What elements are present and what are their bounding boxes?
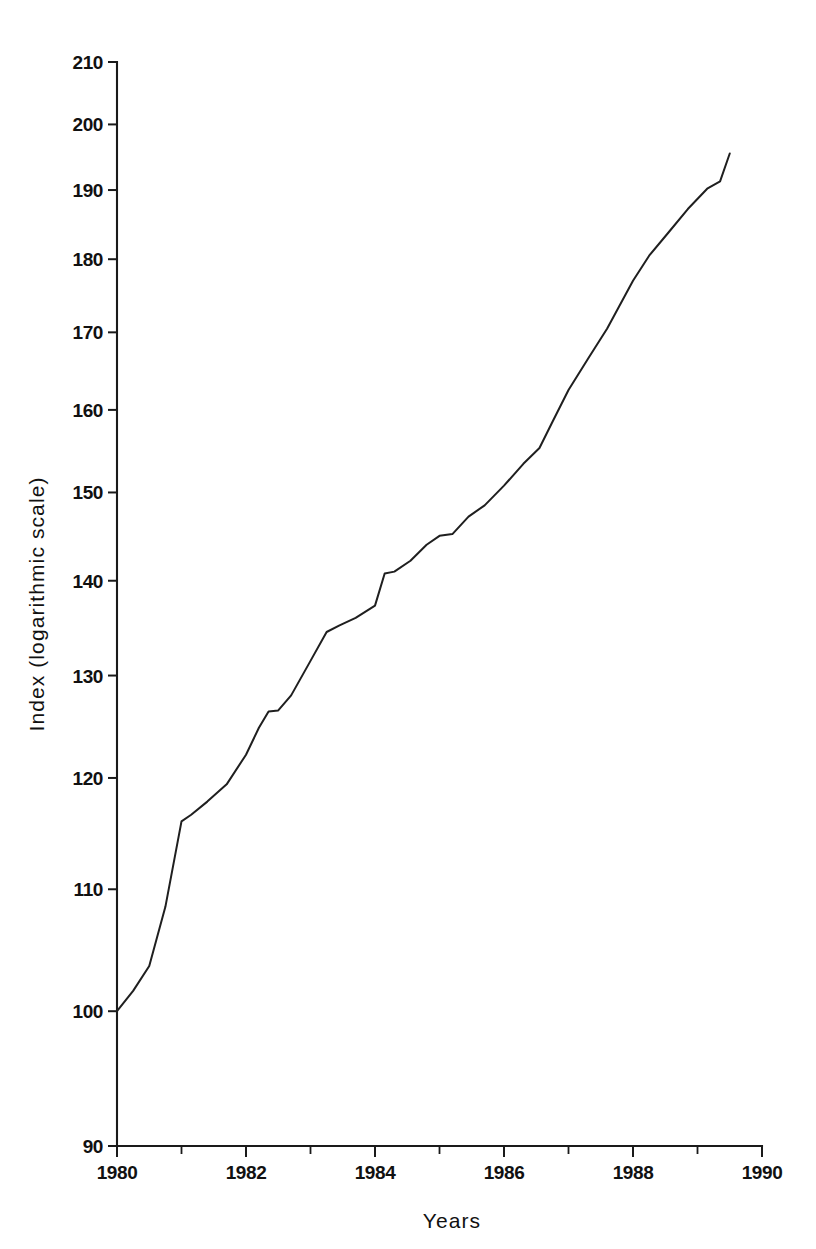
x-tick-label: 1990 [742, 1162, 783, 1183]
y-tick-label: 100 [72, 1001, 103, 1022]
x-tick-label: 1988 [613, 1162, 654, 1183]
y-tick-label: 160 [72, 400, 103, 421]
x-tick-label: 1980 [97, 1162, 138, 1183]
line-chart: 21020019018017016015014013012011010090 1… [0, 0, 816, 1249]
x-axis-title: Years [423, 1209, 481, 1232]
y-tick-label: 110 [74, 879, 103, 900]
y-tick-label: 130 [72, 666, 103, 687]
data-line-1 [117, 154, 730, 1012]
y-tick-label: 210 [72, 52, 103, 73]
y-tick-label: 200 [72, 114, 103, 135]
y-tick-label: 120 [72, 768, 103, 789]
x-axis: 198019821984198619881990 [97, 1146, 783, 1183]
y-axis-title: Index (logarithmic scale) [25, 476, 48, 731]
y-tick-label: 190 [72, 180, 103, 201]
y-tick-label: 140 [72, 571, 103, 592]
y-tick-label: 150 [72, 482, 103, 503]
y-tick-label: 90 [83, 1136, 103, 1157]
x-tick-label: 1986 [484, 1162, 525, 1183]
y-tick-label: 180 [72, 249, 103, 270]
x-tick-label: 1982 [226, 1162, 267, 1183]
y-tick-label: 170 [72, 322, 103, 343]
data-series-group [117, 154, 730, 1012]
x-tick-label: 1984 [355, 1162, 397, 1183]
y-axis: 21020019018017016015014013012011010090 [72, 52, 117, 1157]
chart-container: 21020019018017016015014013012011010090 1… [0, 0, 816, 1249]
